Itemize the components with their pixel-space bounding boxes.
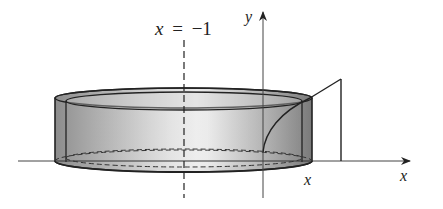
shell-method-diagram: x = −1 y x x (0, 0, 443, 209)
function-line-segment (310, 79, 341, 98)
y-axis-label: y (243, 8, 253, 26)
diagram-canvas: x = −1 y x x (0, 0, 443, 209)
rotation-axis-label: x = −1 (154, 18, 212, 39)
shell-radius-label: x (303, 171, 311, 188)
x-axis-label: x (399, 167, 407, 184)
